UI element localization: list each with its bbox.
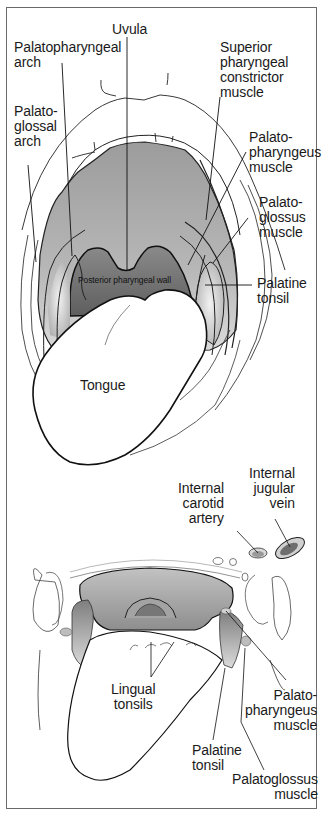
label-palatine-tonsil-top: Palatine tonsil — [257, 276, 307, 306]
label-internal-jugular-vein: Internal jugular vein — [249, 466, 295, 511]
label-palatopharyngeal-arch: Palatopharyngeal arch — [14, 40, 121, 70]
label-internal-carotid-artery: Internal carotid artery — [178, 481, 224, 526]
label-lingual-tonsils: Lingual tonsils — [111, 682, 155, 712]
label-palatoglossal-arch: Palato- glossal arch — [14, 104, 58, 149]
label-tongue: Tongue — [80, 378, 125, 393]
label-superior-pharyngeal-constrictor-muscle: Superior pharyngeal constrictor muscle — [220, 40, 288, 100]
label-palatoglossus-muscle-top: Palato- glossus muscle — [259, 195, 306, 240]
label-posterior-pharyngeal-wall: Posterior pharyngeal wall — [78, 275, 171, 285]
label-uvula: Uvula — [112, 22, 147, 37]
label-palatine-tonsil-bottom: Palatine tonsil — [192, 743, 242, 773]
label-palatopharyngeus-muscle-top: Palato- pharyngeus muscle — [249, 130, 321, 175]
bottom-view — [33, 533, 308, 780]
label-palatopharyngeus-muscle-bottom: Palato- pharyngeus muscle — [245, 688, 317, 733]
label-palatoglossus-muscle-bottom: Palatoglossus muscle — [232, 772, 318, 802]
